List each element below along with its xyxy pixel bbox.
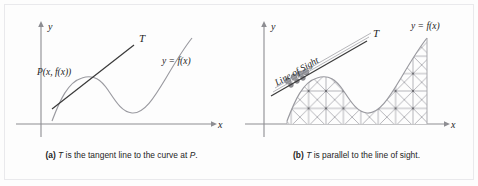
curve-label-a: y = f(x) [161,56,191,67]
curve-label-b: y = f(x) [410,21,440,32]
y-axis-label-a: y [47,21,53,32]
caption-a-period: . [195,150,197,160]
caption-b: (b) T is parallel to the line of sight. [239,150,474,160]
caption-b-tag: (b) [293,150,304,160]
caption-b-period: . [418,150,420,160]
caption-a-text: is the tangent line to the curve at [63,150,189,160]
tangent-line-a [52,45,134,109]
y-axis-label-b: y [270,21,276,32]
figure-root: y x T y = f(x) P(x, f(x)) (a) T is the t… [0,0,478,186]
caption-b-text: is parallel to the line of sight [311,150,417,160]
point-label-a: P(x, f(x)) [36,67,71,78]
panel-b-diagram: y x [239,4,474,150]
x-axis-label-a: x [217,119,223,130]
panel-a-diagram: y x T y = f(x) P(x, f(x)) [4,4,239,150]
x-axis-label-b: x [450,119,456,130]
caption-a-tag: (a) [45,150,55,160]
tangent-label-b: T [373,27,380,39]
panel-line-of-sight: y x [239,4,474,180]
tangent-label-a: T [139,32,146,44]
caption-a: (a) T is the tangent line to the curve a… [4,150,239,160]
panel-tangent-line: y x T y = f(x) P(x, f(x)) (a) T is the t… [4,4,239,180]
curve-fx-a [52,38,192,121]
